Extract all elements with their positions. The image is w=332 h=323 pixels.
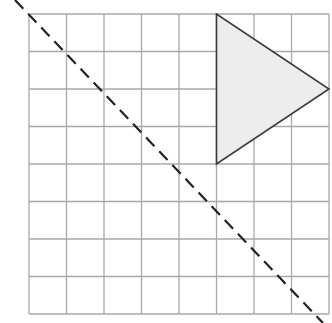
diagram-canvas (0, 0, 332, 323)
shaded-triangle (217, 14, 330, 164)
grid-diagram (0, 0, 332, 323)
dashed-reflection-line (15, 0, 323, 323)
